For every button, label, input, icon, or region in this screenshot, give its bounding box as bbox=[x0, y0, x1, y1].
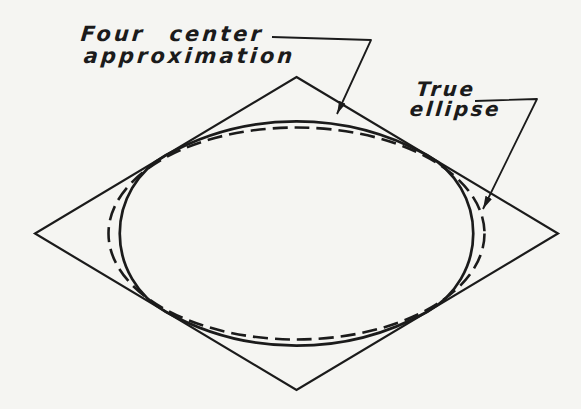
true-ellipse-label-line2: ellipse bbox=[409, 99, 502, 119]
four-center-label-line1: Four center bbox=[80, 23, 298, 45]
true-ellipse-label: True ellipse bbox=[409, 79, 504, 119]
four-center-label-line2: approximation bbox=[83, 45, 296, 67]
four-center-label: Four center approximation bbox=[78, 23, 298, 67]
true-ellipse-label-line1: True bbox=[416, 79, 504, 99]
circumscribing-rhombus bbox=[35, 77, 558, 390]
true-ellipse-curve bbox=[109, 128, 485, 340]
figure: Four center approximation True ellipse bbox=[0, 0, 581, 409]
